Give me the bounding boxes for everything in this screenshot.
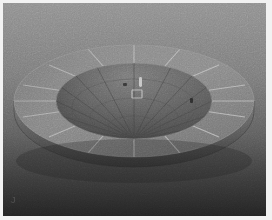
corner-mark-glyph: J <box>11 194 18 206</box>
specular-streak <box>139 77 142 87</box>
frame-edge-top <box>0 0 272 3</box>
frame-edge-right <box>266 0 272 220</box>
dark-speck-right <box>190 98 193 103</box>
bowl-scene <box>3 3 266 216</box>
frame-edge-bottom <box>0 216 272 220</box>
frame-edge-left <box>0 0 3 220</box>
contact-shadow <box>16 139 252 183</box>
image-viewport: J <box>0 0 272 220</box>
render-canvas: J <box>3 3 266 216</box>
dark-speck-left <box>123 83 127 86</box>
